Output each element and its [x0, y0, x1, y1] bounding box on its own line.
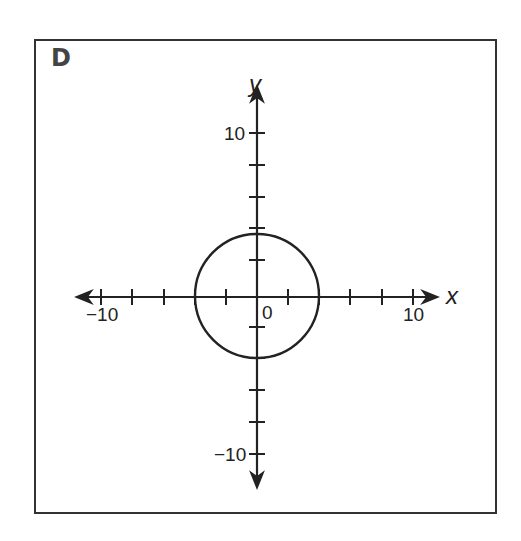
x-axis-label: x [445, 282, 459, 309]
x-tick-label-10: 10 [403, 304, 424, 325]
x-tick-label-neg10: −10 [86, 304, 118, 325]
origin-label: 0 [262, 302, 273, 323]
y-tick-label-neg10: −10 [214, 444, 246, 465]
y-axis-label: y [247, 70, 263, 97]
y-tick-label-10: 10 [224, 123, 245, 144]
coordinate-plane: x y −10 10 0 10 −10 [0, 0, 521, 541]
